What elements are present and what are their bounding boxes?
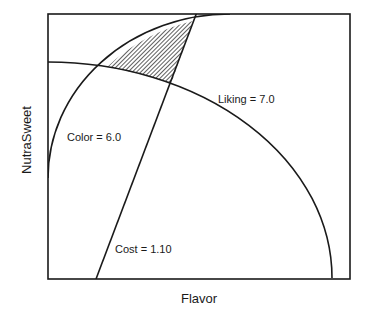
plot-frame (48, 14, 350, 279)
contour-diagram: Liking = 7.0 Color = 6.0 Cost = 1.10 Fla… (0, 0, 368, 318)
y-axis-label: NutraSweet (19, 106, 34, 174)
cost-label: Cost = 1.10 (115, 243, 172, 255)
color-label: Color = 6.0 (67, 131, 121, 143)
x-axis-label: Flavor (181, 291, 218, 306)
liking-label: Liking = 7.0 (218, 93, 275, 105)
liking-contour (48, 62, 332, 278)
